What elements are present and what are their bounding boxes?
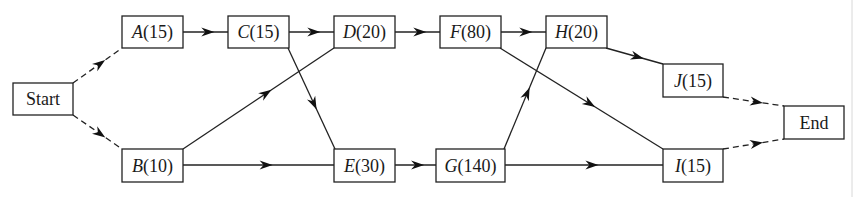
arrowhead-icon	[749, 140, 763, 149]
node-label: H(20)	[554, 22, 598, 43]
node-label: B(10)	[132, 156, 173, 177]
edge-I-to-end	[723, 139, 784, 149]
node-d: D(20)	[334, 16, 395, 48]
nodes-layer: StartA(15)B(10)C(15)D(20)E(30)F(80)G(140…	[13, 16, 844, 182]
arrowhead-icon	[750, 97, 764, 106]
edge-E-to-G	[395, 161, 436, 170]
activity-duration: (15)	[681, 156, 711, 177]
edge-J-to-end	[723, 97, 784, 107]
node-i: I(15)	[663, 149, 723, 182]
edge-line	[73, 48, 122, 83]
activity-letter: E	[343, 156, 355, 176]
activity-network-diagram: StartA(15)B(10)C(15)D(20)E(30)F(80)G(140…	[0, 0, 854, 197]
node-label: I(15)	[674, 156, 711, 177]
edge-line	[606, 48, 663, 64]
activity-letter: G	[445, 156, 458, 176]
edge-D-to-F	[395, 28, 440, 37]
edge-start-to-B	[73, 115, 122, 149]
node-j: J(15)	[663, 64, 723, 97]
node-c: C(15)	[228, 16, 289, 48]
arrowhead-icon	[582, 96, 595, 107]
node-g: G(140)	[436, 149, 505, 182]
node-start: Start	[13, 83, 73, 115]
activity-duration: (15)	[682, 71, 712, 92]
node-label: End	[800, 113, 829, 133]
activity-duration: (30)	[355, 156, 385, 177]
node-label: E(30)	[343, 156, 385, 177]
edge-F-to-H	[501, 28, 546, 37]
node-label: J(15)	[674, 71, 712, 92]
edge-B-to-E	[183, 161, 334, 170]
node-label: A(15)	[131, 22, 173, 43]
activity-duration: (15)	[250, 22, 280, 43]
activity-duration: (10)	[143, 156, 173, 177]
edge-C-to-D	[289, 28, 334, 37]
arrowhead-icon	[258, 90, 271, 101]
node-label: F(80)	[449, 22, 491, 43]
activity-duration: (140)	[458, 156, 497, 177]
arrowhead-icon	[92, 60, 105, 71]
node-end: End	[784, 106, 844, 139]
edge-H-to-J	[606, 48, 663, 64]
edge-line	[73, 115, 122, 149]
activity-duration: (80)	[461, 22, 491, 43]
node-b: B(10)	[122, 149, 183, 182]
activity-letter: D	[342, 22, 356, 42]
node-label: C(15)	[237, 22, 279, 43]
edges-layer	[73, 28, 784, 170]
node-h: H(20)	[546, 16, 607, 48]
node-label: Start	[26, 89, 60, 109]
activity-duration: (20)	[568, 22, 598, 43]
activity-duration: (20)	[356, 22, 386, 43]
node-a: A(15)	[122, 16, 183, 48]
activity-letter: B	[132, 156, 143, 176]
node-f: F(80)	[440, 16, 501, 48]
edge-G-to-I	[505, 161, 663, 170]
activity-letter: H	[554, 22, 569, 42]
edge-start-to-A	[73, 48, 122, 83]
edge-A-to-C	[183, 28, 228, 37]
node-e: E(30)	[334, 149, 395, 182]
arrowhead-icon	[92, 126, 105, 137]
activity-duration: (15)	[143, 22, 173, 43]
node-label: G(140)	[445, 156, 497, 177]
node-label: D(20)	[342, 22, 386, 43]
